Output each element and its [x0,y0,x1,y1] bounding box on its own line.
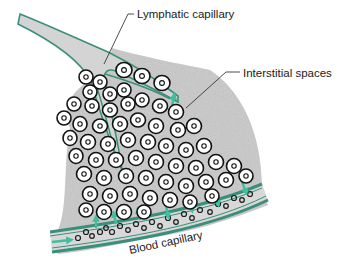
label-interstitial-spaces: Interstitial spaces [243,67,332,79]
lymphatic-system-diagram: Lymphatic capillary Interstitial spaces … [0,0,342,268]
label-lymphatic-capillary: Lymphatic capillary [137,8,235,20]
